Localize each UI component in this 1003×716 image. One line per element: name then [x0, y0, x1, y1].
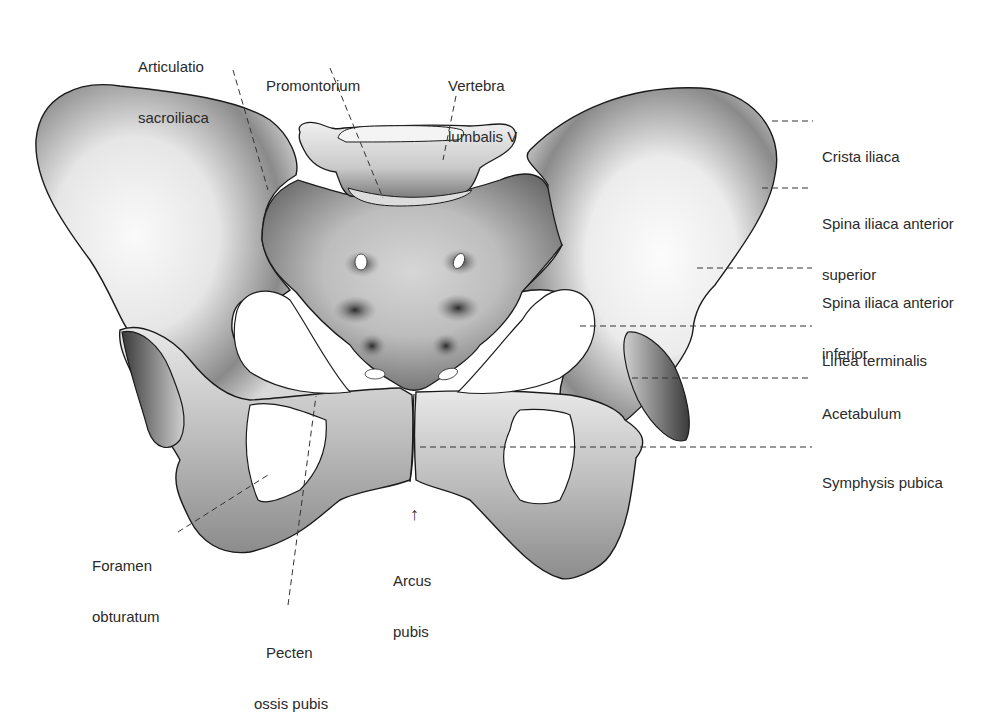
sacral-foramen-shadow — [358, 334, 386, 358]
sacral-foramen-shadow — [432, 334, 460, 358]
label-vertebra-lumbalis-v: Vertebra lumbalis V — [448, 43, 517, 162]
sacral-foramen-shadow — [333, 296, 377, 324]
label-crista-iliaca: Crista iliaca — [822, 114, 900, 182]
arcus-pubis-arrow-icon: ↑ — [410, 505, 419, 523]
right-obturator-foramen — [504, 409, 575, 503]
label-symphysis-pubica: Symphysis pubica — [822, 440, 943, 508]
label-pecten-ossis-pubis: Pecten ossis pubis — [254, 610, 328, 716]
label-articulatio-sacroiliaca: Articulatio sacroiliaca — [138, 24, 209, 143]
label-foramen-obturatum: Foramen obturatum — [92, 523, 160, 642]
sacral-foramen — [365, 369, 385, 379]
label-arcus-pubis: Arcus pubis — [393, 538, 431, 657]
sacral-foramen — [355, 254, 367, 270]
sacral-foramen-shadow — [436, 294, 480, 322]
label-promontorium: Promontorium — [266, 43, 360, 111]
label-acetabulum: Acetabulum — [822, 371, 901, 439]
